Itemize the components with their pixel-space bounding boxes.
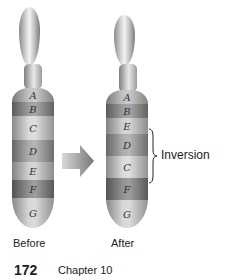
band-letter: C bbox=[29, 123, 37, 134]
band-a: A bbox=[106, 90, 148, 104]
centromere bbox=[119, 64, 137, 92]
chromosome-before: ABCDEFG bbox=[14, 0, 74, 240]
arrow-right-icon bbox=[62, 145, 94, 177]
inversion-label: Inversion bbox=[161, 148, 210, 162]
band-f: F bbox=[12, 180, 54, 198]
band-letter: A bbox=[29, 90, 36, 101]
chromosome-after: ABEDCFG bbox=[108, 0, 168, 240]
chapter-label: Chapter 10 bbox=[58, 264, 112, 276]
band-d: D bbox=[106, 134, 148, 156]
band-letter: A bbox=[123, 92, 130, 103]
band-c: C bbox=[12, 116, 54, 140]
band-c: C bbox=[106, 156, 148, 178]
band-letter: E bbox=[123, 121, 130, 132]
before-label: Before bbox=[13, 237, 45, 249]
band-letter: C bbox=[123, 162, 131, 173]
band-a: A bbox=[12, 88, 54, 102]
band-letter: F bbox=[30, 184, 37, 195]
band-b: B bbox=[12, 102, 54, 116]
short-arm bbox=[19, 7, 40, 65]
band-g: G bbox=[12, 198, 54, 228]
band-letter: E bbox=[29, 166, 36, 177]
band-e: E bbox=[12, 162, 54, 180]
page-number: 172 bbox=[14, 262, 37, 278]
band-letter: D bbox=[29, 146, 37, 157]
band-letter: D bbox=[123, 140, 131, 151]
band-f: F bbox=[106, 178, 148, 200]
long-arm: ABEDCFG bbox=[106, 90, 148, 228]
long-arm: ABCDEFG bbox=[12, 88, 54, 228]
band-letter: F bbox=[124, 184, 131, 195]
band-b: B bbox=[106, 104, 148, 118]
inversion-brace bbox=[148, 128, 158, 184]
short-arm bbox=[114, 15, 135, 65]
band-d: D bbox=[12, 140, 54, 162]
after-label: After bbox=[111, 237, 134, 249]
band-letter: G bbox=[29, 208, 37, 219]
band-letter: B bbox=[123, 106, 130, 117]
band-letter: G bbox=[123, 209, 131, 220]
centromere bbox=[24, 64, 42, 89]
band-letter: B bbox=[29, 104, 36, 115]
band-e: E bbox=[106, 118, 148, 134]
band-g: G bbox=[106, 200, 148, 228]
